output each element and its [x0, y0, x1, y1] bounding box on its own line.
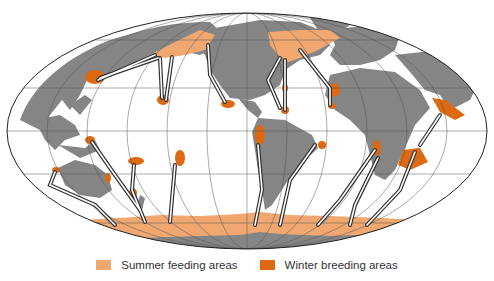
legend-label-summer: Summer feeding areas	[121, 259, 237, 271]
legend-item-summer: Summer feeding areas	[96, 259, 237, 271]
graticule	[0, 13, 494, 249]
legend: Summer feeding areas Winter breeding are…	[0, 254, 494, 276]
summer-swatch	[96, 260, 111, 270]
winter-swatch	[260, 260, 275, 270]
legend-label-winter: Winter breeding areas	[285, 259, 398, 271]
world-migration-map	[0, 0, 494, 250]
legend-item-winter: Winter breeding areas	[260, 259, 398, 271]
